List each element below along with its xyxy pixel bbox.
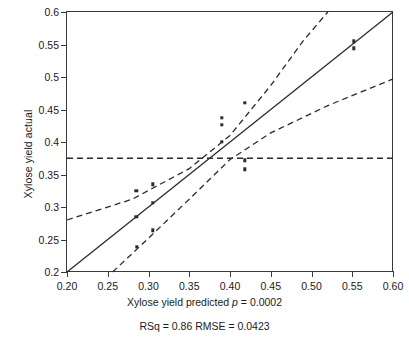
data-point (220, 116, 223, 119)
y-tick-label: 0.45 (39, 104, 59, 116)
data-point (135, 189, 138, 192)
data-point (243, 101, 246, 104)
stats-caption: RSq = 0.86 RMSE = 0.0423 (0, 320, 409, 332)
x-tick (393, 271, 394, 277)
p-value: = 0.0002 (241, 296, 282, 308)
x-tick-label: 0.55 (342, 280, 362, 292)
x-tick-label: 0.45 (261, 280, 281, 292)
data-point (220, 140, 223, 143)
fit-line (67, 12, 393, 272)
chart-lines (67, 12, 393, 272)
y-tick-label: 0.35 (39, 169, 59, 181)
x-axis-title: Xylose yield predicted p = 0.0002 (0, 296, 409, 308)
x-tick-label: 0.20 (57, 280, 77, 292)
upper-confidence-band (67, 12, 328, 220)
y-tick-label: 0.4 (44, 136, 59, 148)
data-point (220, 123, 223, 126)
x-tick-label: 0.25 (98, 280, 118, 292)
y-tick-label: 0.5 (44, 71, 59, 83)
data-point (243, 158, 246, 161)
x-tick-label: 0.50 (301, 280, 321, 292)
y-tick-label: 0.55 (39, 39, 59, 51)
x-axis-title-text: Xylose yield predicted (127, 296, 229, 308)
data-point (352, 40, 355, 43)
p-symbol: p (232, 296, 238, 308)
chart-figure: Xylose yield actual 0.20.250.30.350.40.4… (0, 0, 409, 344)
data-point (243, 168, 246, 171)
data-point (151, 183, 154, 186)
y-tick-label: 0.25 (39, 234, 59, 246)
x-tick-label: 0.35 (179, 280, 199, 292)
y-tick-label: 0.2 (44, 266, 59, 278)
data-point (151, 229, 154, 232)
plot-area: 0.20.250.30.350.40.450.50.550.6 0.200.25… (66, 12, 392, 272)
data-point (135, 215, 138, 218)
y-tick-label: 0.3 (44, 201, 59, 213)
data-point (135, 245, 138, 248)
x-tick-label: 0.30 (138, 280, 158, 292)
y-axis-title: Xylose yield actual (22, 64, 34, 244)
x-tick-label: 0.60 (383, 280, 403, 292)
x-tick-label: 0.40 (220, 280, 240, 292)
y-tick-label: 0.6 (44, 6, 59, 18)
data-point (151, 201, 154, 204)
data-point (352, 47, 355, 50)
